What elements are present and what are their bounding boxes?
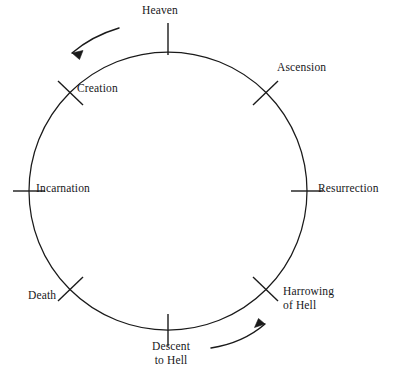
node-label-resurrection: Resurrection: [318, 182, 379, 196]
flow-arrow-top-left: [72, 28, 119, 60]
node-label-harrowing-of-hell: Harrowingof Hell: [283, 285, 334, 312]
descent-line-2: to Hell: [155, 354, 188, 366]
node-label-ascension: Ascension: [277, 61, 326, 75]
node-label-heaven: Heaven: [142, 4, 178, 18]
node-label-creation: Creation: [77, 82, 118, 96]
harrowing-line-1: Harrowing: [283, 285, 334, 297]
descent-line-1: Descent: [152, 340, 190, 352]
node-label-descent-to-hell: Descentto Hell: [142, 340, 200, 367]
node-label-death: Death: [28, 289, 56, 303]
harrowing-line-2: of Hell: [283, 299, 316, 311]
flow-arrow-bottom-right: [211, 319, 265, 349]
cycle-diagram: Heaven Creation Ascension Incarnation Re…: [0, 0, 404, 379]
node-label-incarnation: Incarnation: [36, 182, 90, 196]
